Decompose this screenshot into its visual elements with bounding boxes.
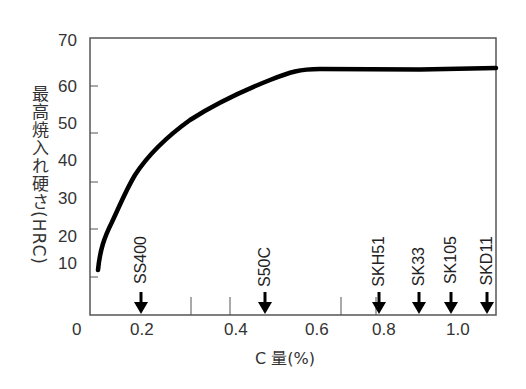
x-axis-title: C 量(%) <box>255 345 315 369</box>
x-tick-label: 0.6 <box>305 320 329 340</box>
y-tick-label: 50 <box>58 114 77 134</box>
material-arrows <box>134 292 494 314</box>
arrow-s50c-icon <box>258 292 272 314</box>
arrow-sk105-icon <box>444 292 458 314</box>
y-tick-label: 20 <box>58 227 77 247</box>
x-tick-label: 0.2 <box>130 320 154 340</box>
material-label-ss400: SS400 <box>132 236 150 284</box>
y-ticks <box>90 86 98 277</box>
material-label-sk33: SK33 <box>410 247 428 286</box>
arrow-skh51-icon <box>372 292 386 314</box>
x-tick-label: 0.4 <box>224 320 248 340</box>
arrow-sk33-icon <box>412 292 426 314</box>
y-tick-label: 30 <box>58 189 77 209</box>
y-tick-label: 40 <box>58 151 77 171</box>
y-axis-title: 最高焼入れ硬さ(HRC) <box>22 85 52 285</box>
y-tick-label: 60 <box>58 77 77 97</box>
x-ticks <box>191 297 376 315</box>
material-label-sk105: SK105 <box>442 236 460 284</box>
y-tick-label: 10 <box>58 254 77 274</box>
arrow-ss400-icon <box>134 292 148 314</box>
plot-frame <box>90 38 496 315</box>
arrow-skd11-icon <box>480 292 494 314</box>
material-label-s50c: S50C <box>256 247 274 287</box>
hardness-curve <box>98 68 496 270</box>
material-label-skd11: SKD11 <box>478 236 496 286</box>
x-tick-label: 0 <box>72 320 81 340</box>
material-label-skh51: SKH51 <box>370 236 388 287</box>
y-tick-label: 70 <box>58 31 77 51</box>
x-tick-label: 1.0 <box>446 320 470 340</box>
x-tick-label: 0.8 <box>372 320 396 340</box>
